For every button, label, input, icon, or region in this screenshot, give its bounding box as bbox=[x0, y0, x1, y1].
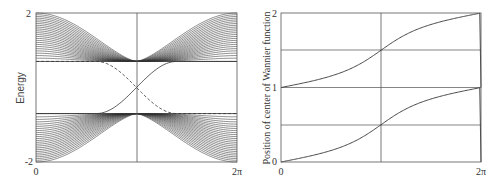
x-tick-right: 2π bbox=[232, 166, 242, 177]
band-line bbox=[36, 40, 237, 61]
band-line bbox=[36, 114, 237, 120]
y-axis-label: Energy bbox=[15, 72, 26, 104]
wannier-center-plot: 2 1 0 0 2π Position of center of Wannier… bbox=[261, 8, 486, 177]
band-line bbox=[36, 114, 237, 146]
x-tick-right: 2π bbox=[476, 166, 486, 177]
band-line bbox=[36, 13, 237, 61]
x-tick-left: 0 bbox=[34, 166, 39, 177]
y-tick-bottom: -2 bbox=[25, 156, 33, 167]
band-line bbox=[36, 15, 237, 62]
band-line bbox=[36, 114, 237, 133]
band-line bbox=[36, 31, 237, 62]
edge-state-solid bbox=[36, 61, 237, 113]
y-tick-top: 2 bbox=[272, 8, 277, 19]
band-line bbox=[36, 56, 237, 62]
band-line bbox=[36, 114, 237, 162]
band-line bbox=[36, 29, 237, 61]
band-line bbox=[36, 114, 237, 131]
band-line bbox=[36, 114, 237, 157]
energy-band-plot: 2 -2 0 2π Energy bbox=[15, 8, 242, 177]
x-tick-left: 0 bbox=[279, 166, 284, 177]
band-line bbox=[36, 42, 237, 61]
edge-states bbox=[36, 61, 237, 113]
figure: 2 -2 0 2π Energy 2 1 0 0 2π Position of … bbox=[0, 0, 503, 180]
band-line bbox=[36, 44, 237, 61]
band-line bbox=[36, 18, 237, 61]
band-line bbox=[36, 114, 237, 135]
band-line bbox=[36, 38, 237, 61]
y-tick-mid: 1 bbox=[272, 82, 277, 93]
band-line bbox=[36, 114, 237, 117]
band-line bbox=[36, 114, 237, 137]
y-tick-top: 2 bbox=[26, 8, 31, 19]
band-line bbox=[36, 58, 237, 61]
band-line bbox=[36, 114, 237, 161]
band-line bbox=[36, 114, 237, 145]
y-axis-label: Position of center of Wannier function bbox=[261, 11, 272, 164]
y-tick-bottom: 0 bbox=[272, 156, 277, 167]
